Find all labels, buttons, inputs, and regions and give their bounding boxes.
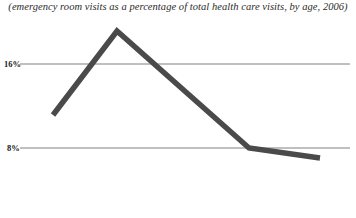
plot-area: 16% 8% bbox=[0, 14, 356, 218]
y-axis-tick-label-16: 16% bbox=[4, 59, 21, 69]
y-axis-tick-label-8: 8% bbox=[7, 143, 20, 153]
chart-caption: (emergency room visits as a percentage o… bbox=[0, 0, 356, 14]
chart-svg bbox=[0, 14, 356, 218]
data-line-series-1 bbox=[53, 31, 320, 158]
chart-figure: (emergency room visits as a percentage o… bbox=[0, 0, 356, 218]
